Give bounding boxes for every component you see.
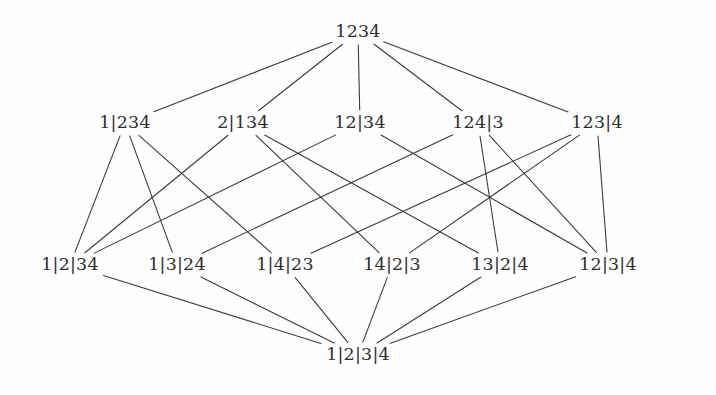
hasse-node-1-3-24: 1|3|24 (145, 254, 209, 276)
hasse-edge (295, 278, 348, 343)
hasse-edge (489, 135, 596, 252)
hasse-edge (130, 136, 173, 252)
hasse-node-123-4: 123|4 (568, 112, 625, 134)
hasse-edge (598, 136, 607, 252)
hasse-node-1-4-23: 1|4|23 (253, 254, 317, 276)
hasse-node-1234: 1234 (332, 21, 383, 43)
hasse-node-1-2-3-4: 1|2|3|4 (323, 344, 393, 366)
hasse-edge (480, 136, 498, 252)
hasse-edge (377, 277, 481, 343)
hasse-edge (311, 135, 571, 253)
hasse-edge (256, 135, 379, 252)
hasse-edge (202, 135, 453, 253)
hasse-edge (104, 275, 321, 343)
hasse-edge (363, 278, 387, 342)
hasse-edge (358, 45, 359, 110)
hasse-edge (75, 136, 120, 252)
hasse-edge (390, 277, 575, 344)
hasse-edge (382, 41, 568, 112)
hasse-node-14-2-3: 14|2|3 (360, 254, 424, 276)
hasse-edge (85, 135, 228, 252)
hasse-edge (381, 135, 587, 253)
hasse-edge (258, 44, 342, 111)
hasse-node-1-2-34: 1|2|34 (38, 254, 102, 276)
hasse-node-1-234: 1|234 (96, 112, 153, 134)
hasse-node-124-3: 124|3 (449, 112, 506, 134)
hasse-edge (94, 135, 335, 253)
hasse-edge (410, 135, 580, 253)
hasse-edge (265, 135, 479, 253)
hasse-edge (154, 41, 334, 111)
hasse-diagram-figure: 12341|2342|13412|34124|3123|41|2|341|3|2… (0, 0, 716, 395)
hasse-edge (201, 277, 334, 343)
hasse-node-13-2-4: 13|2|4 (468, 254, 532, 276)
hasse-edge (374, 44, 462, 111)
edge-layer (0, 0, 716, 395)
hasse-edge (139, 135, 271, 252)
hasse-node-12-3-4: 12|3|4 (576, 254, 640, 276)
hasse-node-12-34: 12|34 (331, 112, 388, 134)
hasse-node-2-134: 2|134 (214, 112, 271, 134)
